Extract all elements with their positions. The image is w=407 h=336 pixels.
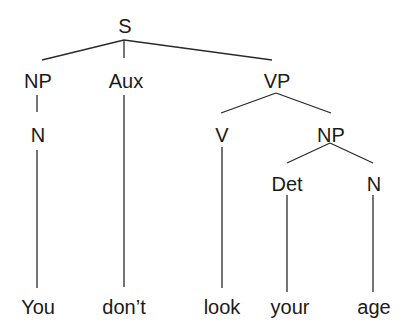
- edge-np-n2: [330, 143, 373, 163]
- edge-s-np: [42, 40, 124, 60]
- node-vp: VP: [264, 70, 291, 92]
- word-you: You: [21, 296, 55, 318]
- node-s: S: [118, 15, 131, 37]
- word-dont: don’t: [102, 296, 146, 318]
- node-n-subject: N: [31, 124, 45, 146]
- node-np-subject: NP: [24, 70, 52, 92]
- edge-s-vp: [124, 40, 272, 60]
- node-v: V: [215, 124, 229, 146]
- edge-vp-np: [276, 93, 331, 113]
- word-look: look: [204, 296, 242, 318]
- node-n-object: N: [367, 173, 381, 195]
- node-det: Det: [271, 173, 303, 195]
- node-np-object: NP: [317, 124, 345, 146]
- edge-np-det: [287, 143, 330, 163]
- node-aux: Aux: [109, 70, 143, 92]
- edge-vp-v: [221, 93, 276, 113]
- word-age: age: [357, 296, 390, 318]
- tree-nodes: S NP Aux VP N V NP Det N: [24, 15, 381, 195]
- word-your: your: [271, 296, 310, 318]
- tree-leaves: You don’t look your age: [21, 296, 391, 318]
- tree-edges: [37, 40, 373, 292]
- syntax-tree-diagram: S NP Aux VP N V NP Det N You don’t look …: [0, 0, 407, 336]
